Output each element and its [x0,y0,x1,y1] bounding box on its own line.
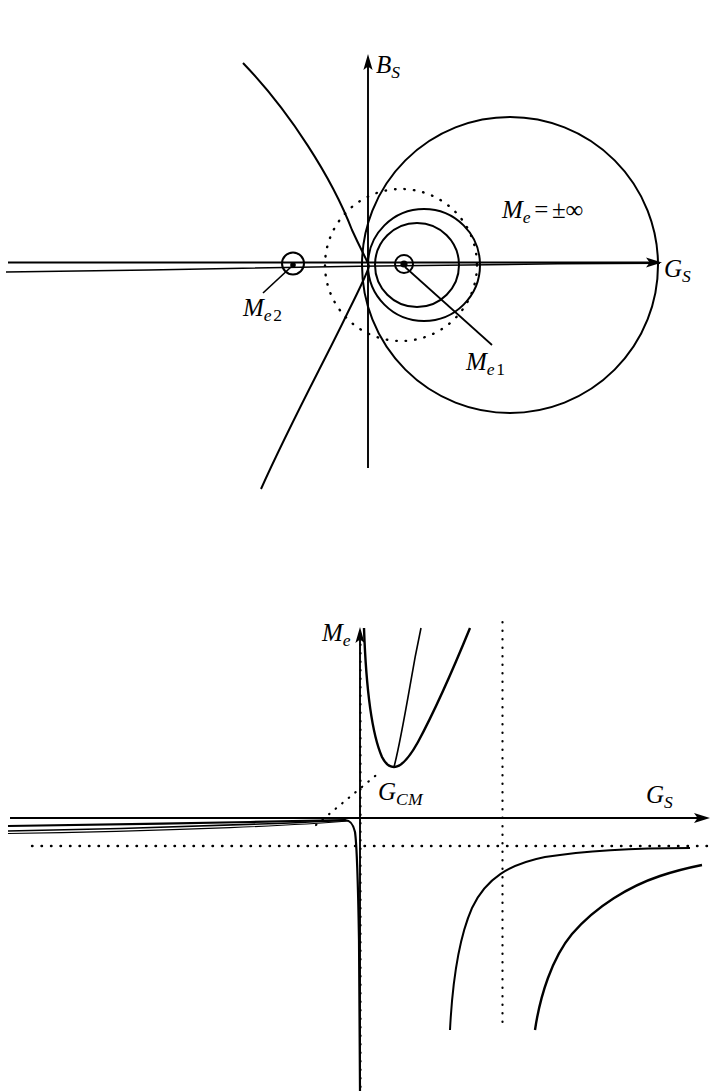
axis-label-b-s: BS [376,52,400,81]
axis-label-g-s-top-sub: S [682,266,691,286]
annotation-m-e-infinity-value: ±∞ [552,196,584,223]
annotation-g-cm-base: G [378,778,396,805]
axis-label-m-e-sub: e [343,630,351,650]
circle-m-e-1-dot [400,260,407,267]
axis-label-m-e-base: M [322,619,343,646]
annotation-m-e-1: Me1 [466,349,505,378]
axis-label-g-s-top-base: G [664,255,682,282]
axis-label-b-s-sub: S [391,62,400,82]
axis-label-g-s-bottom-base: G [646,781,664,808]
bottom-panel [8,622,712,1091]
annotation-m-e-2-sub: e [264,305,272,325]
top-panel [6,54,662,489]
annotation-m-e-1-base: M [466,348,487,375]
annotation-g-cm-sub: CM [396,789,423,809]
annotation-m-e-infinity-op: = [531,196,552,223]
annotation-m-e-2-num: 2 [272,305,282,325]
annotation-m-e-1-num: 1 [495,359,505,379]
annotation-m-e-2: Me2 [243,295,282,324]
annotation-m-e-2-base: M [243,294,264,321]
leader-m-e-2 [263,267,291,293]
annotation-m-e-1-sub: e [487,359,495,379]
annotation-g-cm: GCM [378,779,423,808]
annotation-m-e-infinity: Me=±∞ [502,197,583,226]
axis-label-g-s-top: GS [664,256,691,285]
curve-right-outer [535,865,702,1030]
figure-canvas [0,0,722,1091]
axis-label-b-s-base: B [376,51,391,78]
figure-root: BS GS Me=±∞ Me2 Me1 Me GS GCM [0,0,722,1091]
circle-m-e-2-dot [290,262,296,268]
annotation-m-e-infinity-base: M [502,196,523,223]
curve-right-inner [450,848,690,1030]
axis-label-g-s-bottom-sub: S [664,792,673,812]
arc-negative-large [243,63,369,489]
axis-label-g-s-bottom: GS [646,782,673,811]
arc-near-axis [6,263,660,272]
curve-left-upper [8,820,360,1091]
annotation-m-e-infinity-sub: e [523,207,531,227]
axis-label-m-e: Me [322,620,351,649]
